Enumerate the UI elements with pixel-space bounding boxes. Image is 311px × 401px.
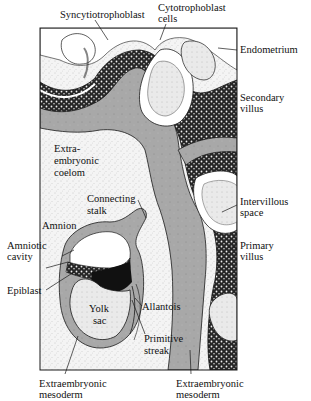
label-cytotrophoblast-line2: cells — [158, 13, 177, 24]
label-secondary-villus-line2: villus — [240, 103, 263, 114]
label-intervillous-space-line2: space — [240, 207, 263, 218]
label-primitive-streak-line2: streak — [144, 345, 169, 356]
label-amniotic-cavity-line2: cavity — [7, 251, 33, 262]
label-intervillous-space-line1: Intervillous — [240, 196, 288, 207]
label-yolk-sac-line2: sac — [93, 315, 106, 326]
label-yolk-sac-line1: Yolk — [89, 303, 109, 314]
label-extraembryonic-mesoderm-left-line1: Extraembryonic — [39, 378, 107, 389]
label-extraembryonic-coelom-line3: coelom — [54, 167, 85, 178]
label-connecting-stalk-line1: Connecting — [87, 193, 135, 204]
label-extraembryonic-mesoderm-right-line1: Extraembryonic — [176, 378, 244, 389]
label-syncytiotrophoblast: Syncytiotrophoblast — [60, 9, 145, 20]
label-endometrium: Endometrium — [240, 44, 298, 55]
label-cytotrophoblast-line1: Cytotrophoblast — [158, 2, 226, 13]
label-connecting-stalk-line2: stalk — [87, 205, 107, 216]
diagram-canvas: Syncytiotrophoblast Cytotrophoblast cell… — [0, 0, 311, 401]
label-extraembryonic-coelom-line2: embryonic — [54, 155, 99, 166]
label-extraembryonic-mesoderm-left-line2: mesoderm — [39, 389, 83, 400]
label-amniotic-cavity-line1: Amniotic — [7, 240, 47, 251]
label-primary-villus-line2: villus — [240, 251, 263, 262]
label-amnion: Amnion — [42, 220, 76, 231]
label-primitive-streak-line1: Primitive — [144, 333, 183, 344]
label-epiblast: Epiblast — [7, 285, 41, 296]
label-allantois: Allantois — [142, 301, 181, 312]
label-primary-villus-line1: Primary — [240, 240, 274, 251]
label-extraembryonic-mesoderm-right-line2: mesoderm — [176, 389, 220, 400]
label-secondary-villus-line1: Secondary — [240, 92, 284, 103]
label-extraembryonic-coelom-line1: Extra- — [54, 143, 80, 154]
